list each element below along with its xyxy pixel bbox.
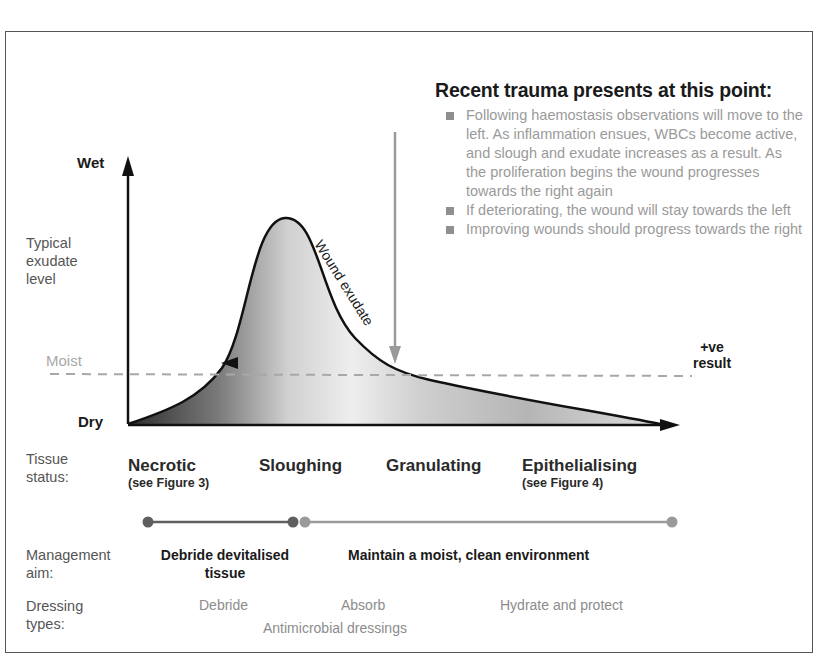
moist-label: Moist bbox=[46, 352, 82, 369]
positive-result-label: +ve result bbox=[690, 339, 734, 371]
panel-bullet: If deteriorating, the wound will stay to… bbox=[446, 201, 806, 220]
x-axis-arrowhead-icon bbox=[660, 419, 680, 431]
timeline-node bbox=[667, 517, 678, 528]
dry-label: Dry bbox=[78, 413, 103, 430]
y-axis-arrowhead-icon bbox=[122, 156, 134, 176]
wet-label: Wet bbox=[77, 154, 104, 171]
timeline-node bbox=[288, 517, 299, 528]
dressing-hydrate-protect: Hydrate and protect bbox=[500, 597, 623, 613]
management-aim-row-label: Management aim: bbox=[26, 546, 111, 582]
timeline-node bbox=[143, 517, 154, 528]
aim-maintain-moist: Maintain a moist, clean environment bbox=[348, 546, 589, 564]
trauma-indicator-arrowhead-icon bbox=[389, 346, 401, 364]
dressing-absorb: Absorb bbox=[341, 597, 385, 613]
panel-title: Recent trauma presents at this point: bbox=[435, 79, 772, 102]
dressing-antimicrobial: Antimicrobial dressings bbox=[263, 620, 407, 636]
panel-bullet-list: Following haemostasis observations will … bbox=[446, 106, 806, 239]
moist-reference-line bbox=[50, 374, 692, 376]
tissue-status-row-label: Tissue status: bbox=[26, 450, 69, 486]
y-axis-label: Typical exudate level bbox=[26, 234, 78, 288]
aim-debride: Debride devitalised tissue bbox=[150, 546, 300, 582]
dressing-types-row-label: Dressing types: bbox=[26, 597, 83, 633]
stage-sloughing: Sloughing bbox=[259, 456, 342, 476]
panel-bullet: Following haemostasis observations will … bbox=[446, 106, 806, 201]
stage-granulating: Granulating bbox=[386, 456, 481, 476]
timeline-node bbox=[300, 517, 311, 528]
stage-necrotic: Necrotic (see Figure 3) bbox=[128, 456, 209, 490]
stage-epithelialising: Epithelialising (see Figure 4) bbox=[522, 456, 637, 490]
dressing-debride: Debride bbox=[199, 597, 248, 613]
panel-bullet: Improving wounds should progress towards… bbox=[446, 220, 806, 239]
